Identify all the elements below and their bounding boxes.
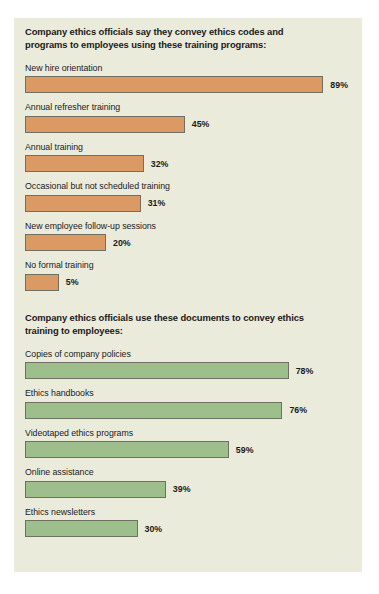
bar-row: 31% [25,195,352,212]
bar-value-label: 76% [289,405,307,415]
bar-category-label: Ethics newsletters [25,507,352,518]
bar-category-label: Copies of company policies [25,349,352,360]
bar-list-training-programs: New hire orientation89%Annual refresher … [25,63,352,291]
bar-row: 32% [25,155,352,172]
chart-section-documents: Company ethics officials use these docum… [25,311,352,537]
bar [25,76,323,93]
bar-row: 76% [25,402,352,419]
bar-group: Occasional but not scheduled training31% [25,181,352,212]
chart-panel: Company ethics officials say they convey… [14,18,362,572]
bar-group: Online assistance39% [25,467,352,498]
bar-category-label: No formal training [25,260,352,271]
bar-group: Annual training32% [25,142,352,173]
bar [25,116,185,133]
bar-row: 89% [25,76,352,93]
section-heading-documents: Company ethics officials use these docum… [25,311,315,338]
bar-row: 45% [25,116,352,133]
bar-category-label: Videotaped ethics programs [25,428,352,439]
bar-value-label: 78% [296,366,314,376]
bar-value-label: 39% [173,484,191,494]
bar-group: Ethics handbooks76% [25,388,352,419]
bar-row: 30% [25,520,352,537]
bar-group: Ethics newsletters30% [25,507,352,538]
bar [25,195,141,212]
bar-category-label: Annual training [25,142,352,153]
bar-group: Copies of company policies78% [25,349,352,380]
bar-category-label: Ethics handbooks [25,388,352,399]
bar [25,402,282,419]
bar-value-label: 59% [236,445,254,455]
bar-category-label: Online assistance [25,467,352,478]
bar-value-label: 5% [66,277,79,287]
bar-group: Annual refresher training45% [25,102,352,133]
bar-value-label: 31% [148,198,166,208]
bar-group: Videotaped ethics programs59% [25,428,352,459]
bar-value-label: 20% [113,238,131,248]
bar [25,234,106,251]
chart-section-training-programs: Company ethics officials say they convey… [25,25,352,291]
bar-row: 20% [25,234,352,251]
bar-row: 5% [25,274,352,291]
bar-value-label: 30% [145,524,163,534]
bar [25,362,289,379]
bar-category-label: Annual refresher training [25,102,352,113]
bar-group: No formal training5% [25,260,352,291]
bar-category-label: Occasional but not scheduled training [25,181,352,192]
bar [25,274,59,291]
bar-category-label: New hire orientation [25,63,352,74]
bar-row: 59% [25,441,352,458]
bar-group: New hire orientation89% [25,63,352,94]
bar-category-label: New employee follow-up sessions [25,221,352,232]
bar [25,481,166,498]
section-heading-training-programs: Company ethics officials say they convey… [25,25,315,52]
bar [25,520,138,537]
bar-row: 39% [25,481,352,498]
bar-group: New employee follow-up sessions20% [25,221,352,252]
bar-row: 78% [25,362,352,379]
bar [25,441,229,458]
bar-value-label: 32% [151,159,169,169]
bar-value-label: 89% [330,80,348,90]
bar [25,155,144,172]
bar-list-documents: Copies of company policies78%Ethics hand… [25,349,352,538]
bar-value-label: 45% [192,119,210,129]
